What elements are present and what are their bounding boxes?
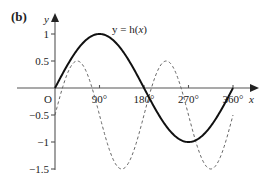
- dashed-curve: [55, 61, 233, 169]
- y-axis-label: y: [43, 13, 49, 25]
- y-tick-label: −0.5: [29, 109, 49, 121]
- axes: x y O: [17, 13, 259, 170]
- x-tick-label: 270°: [178, 93, 199, 105]
- chart: (b) x y O 90°180°270°360° 10.5−0.5−1−1.5…: [0, 0, 266, 194]
- x-axis-label: x: [248, 93, 254, 105]
- y-tick-label: 0.5: [35, 55, 49, 67]
- panel-label: (b): [11, 9, 27, 24]
- curve-label: y = h(x): [112, 23, 147, 36]
- y-tick-label: −1.5: [29, 163, 49, 175]
- origin-label: O: [44, 93, 52, 105]
- x-tick-label: 90°: [92, 93, 107, 105]
- y-tick-label: 1: [44, 28, 50, 40]
- y-tick-label: −1: [37, 136, 49, 148]
- x-axis-arrow-icon: [250, 84, 259, 92]
- y-axis-arrow-icon: [51, 13, 59, 22]
